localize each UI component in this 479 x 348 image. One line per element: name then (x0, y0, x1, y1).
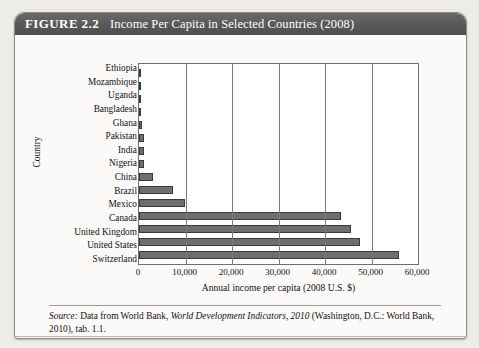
figure-title-bar: FIGURE 2.2 Income Per Capita in Selected… (15, 13, 466, 35)
x-tick-label: 30,000 (265, 267, 290, 277)
category-label: China (53, 173, 137, 182)
x-axis-title: Annual income per capita (2008 U.S. $) (138, 282, 419, 293)
x-tick-label: 60,000 (405, 267, 430, 277)
figure-number-label: FIGURE 2.2 (15, 16, 99, 32)
bar (139, 186, 173, 194)
bar (139, 212, 341, 220)
gridline (232, 64, 233, 264)
source-prefix: Source: (49, 311, 78, 321)
bar (139, 95, 141, 103)
bar (139, 147, 144, 155)
bar (139, 160, 144, 168)
bar (139, 173, 153, 181)
category-label: Pakistan (53, 132, 137, 141)
gridline (372, 64, 373, 264)
source-divider (49, 305, 441, 306)
bar (139, 225, 351, 233)
x-tick-label: 10,000 (172, 267, 197, 277)
source-note: Source: Data from World Bank, World Deve… (49, 310, 447, 335)
x-tick-label: 50,000 (358, 267, 383, 277)
category-label: United States (53, 241, 137, 250)
category-label: India (53, 146, 137, 155)
figure-title-text: Income Per Capita in Selected Countries … (99, 17, 354, 32)
bar (139, 238, 360, 246)
category-label: Ghana (53, 119, 137, 128)
source-text-before: Data from World Bank, (78, 311, 171, 321)
category-label: Nigeria (53, 159, 137, 168)
category-label: United Kingdom (53, 228, 137, 237)
x-axis-ticks: 010,00020,00030,00040,00050,00060,000 (138, 267, 419, 281)
x-tick-label: 40,000 (312, 267, 337, 277)
page-background: FIGURE 2.2 Income Per Capita in Selected… (0, 0, 479, 348)
category-label: Uganda (53, 91, 137, 100)
bar (139, 199, 185, 207)
gridline (186, 64, 187, 264)
plot-area (138, 63, 419, 265)
x-tick-label: 0 (136, 267, 141, 277)
source-italic-title: World Development Indicators, 2010 (171, 311, 310, 321)
bar (139, 121, 142, 129)
bar (139, 134, 144, 142)
bar (139, 251, 399, 259)
category-label-column: EthiopiaMozambiqueUgandaBangladeshGhanaP… (53, 64, 137, 264)
x-tick-label: 20,000 (219, 267, 244, 277)
category-label: Mozambique (53, 78, 137, 87)
y-axis-title: Country (32, 122, 42, 182)
category-label: Switzerland (53, 255, 137, 264)
bottom-rule (14, 336, 465, 337)
category-label: Ethiopia (53, 64, 137, 73)
chart-area: Country EthiopiaMozambiqueUgandaBanglade… (15, 35, 466, 303)
bar (139, 82, 141, 90)
gridline (279, 64, 280, 264)
figure-frame: FIGURE 2.2 Income Per Capita in Selected… (14, 12, 467, 339)
gridline (325, 64, 326, 264)
category-label: Canada (53, 214, 137, 223)
category-label: Bangladesh (53, 105, 137, 114)
category-label: Mexico (53, 200, 137, 209)
bar (139, 69, 141, 77)
category-label: Brazil (53, 187, 137, 196)
bar (139, 108, 141, 116)
